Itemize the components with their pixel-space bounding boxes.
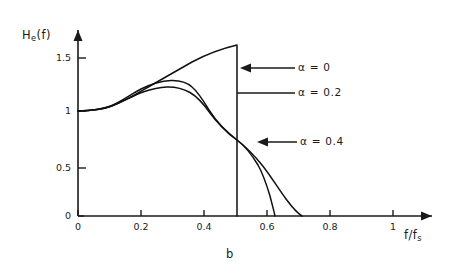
annotation-alpha-0p4: α = 0.4 (300, 135, 344, 147)
annotation-leader-alpha-0 (240, 64, 295, 73)
x-tick-label-0p2: 0.2 (128, 221, 154, 232)
y-tick-label-0p5: 0.5 (45, 162, 71, 173)
panel-label: b (226, 247, 234, 261)
x-tick-marks (78, 210, 393, 216)
y-axis-arrow-icon (74, 30, 83, 41)
y-axis-title-tail: (f) (37, 28, 51, 42)
y-tick-label-1p5: 1.5 (45, 52, 71, 63)
y-tick-label-0: 0 (45, 210, 71, 221)
x-axis-title-subscript: s (417, 233, 422, 243)
x-tick-label-1: 1 (380, 221, 406, 232)
y-axis-title-main: H (22, 28, 31, 42)
x-tick-label-0: 0 (65, 221, 91, 232)
curve-alpha-0p2 (78, 80, 275, 216)
x-axis-arrow-icon (421, 212, 432, 221)
x-axis (78, 212, 432, 221)
annotation-leader-alpha-0p4 (257, 138, 297, 147)
x-tick-label-0p6: 0.6 (254, 221, 280, 232)
annotation-alpha-0p2: α = 0.2 (298, 86, 342, 98)
y-axis-title: He(f) (22, 28, 51, 43)
annotation-alpha-0: α = 0 (298, 61, 331, 73)
y-tick-label-1: 1 (45, 105, 71, 116)
x-tick-label-0p4: 0.4 (191, 221, 217, 232)
curve-alpha-0 (78, 45, 237, 216)
figure-container: He(f) f/fs α = 0 α = 0.2 α = 0.4 b 0 0.2… (0, 0, 461, 272)
y-tick-marks (78, 58, 86, 216)
x-axis-title: f/fs (404, 228, 422, 243)
x-tick-label-0p8: 0.8 (317, 221, 343, 232)
